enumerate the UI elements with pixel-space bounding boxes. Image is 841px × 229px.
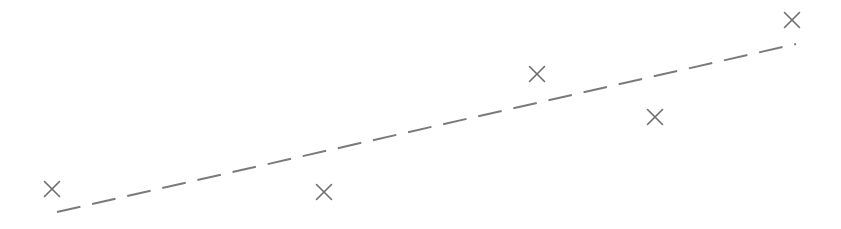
x-marker-icon: [317, 185, 332, 200]
x-marker-icon: [45, 182, 60, 197]
scatter-chart: [0, 0, 841, 229]
x-marker-icon: [648, 110, 663, 125]
dashed-trend-line: [57, 44, 796, 212]
data-points-layer: [45, 13, 800, 200]
x-marker-icon: [785, 13, 800, 28]
trend-line-layer: [57, 44, 796, 212]
x-marker-icon: [530, 67, 545, 82]
